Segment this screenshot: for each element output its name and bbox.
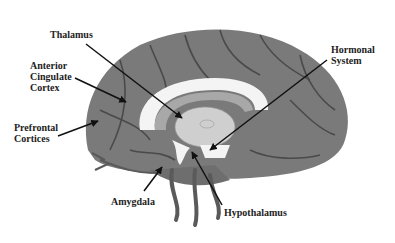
label-prefrontal-cortices: Prefrontal Cortices — [14, 122, 58, 144]
label-anterior-cingulate-cortex: Anterior Cingulate Cortex — [30, 60, 72, 93]
label-hormonal-system: Hormonal System — [331, 44, 375, 66]
label-thalamus: Thalamus — [50, 29, 93, 40]
label-amygdala: Amygdala — [111, 196, 155, 207]
thalamus-shape — [175, 107, 235, 147]
label-hypothalamus: Hypothalamus — [224, 207, 287, 218]
